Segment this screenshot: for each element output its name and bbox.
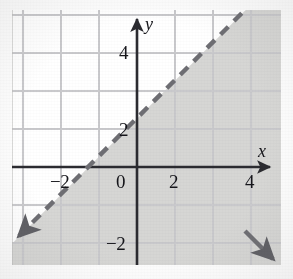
y-tick-label--2: −2	[106, 234, 125, 253]
x-axis-label: x	[258, 142, 266, 160]
y-tick-label-2: 2	[119, 120, 129, 139]
x-tick-label-4: 4	[245, 172, 255, 191]
plane-graphics	[12, 10, 281, 265]
inequality-graph-figure: −2 0 2 4 4 2 −2 x y	[0, 0, 293, 279]
x-tick-label--2: −2	[50, 172, 69, 191]
origin-label: 0	[116, 172, 126, 191]
coordinate-plane: −2 0 2 4 4 2 −2 x y	[12, 10, 281, 265]
y-axis-label: y	[145, 15, 153, 33]
shaded-half-plane	[12, 10, 281, 265]
y-tick-label-4: 4	[119, 43, 129, 62]
x-tick-label-2: 2	[169, 172, 179, 191]
